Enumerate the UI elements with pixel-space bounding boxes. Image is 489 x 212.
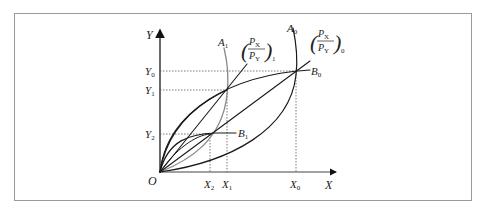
svg-text:1: 1	[272, 55, 276, 63]
curve-a0	[160, 28, 297, 172]
x-axis-label: X	[324, 178, 333, 192]
y-tick-y1: Y1	[145, 84, 155, 98]
price-ratio-0-label: ( PX PY ) 0	[310, 28, 345, 55]
svg-text:): )	[263, 38, 272, 63]
label-b1: B1	[238, 127, 249, 141]
svg-text:PX: PX	[317, 28, 329, 41]
x-tick-x0: X0	[289, 178, 301, 192]
price-line-0	[160, 61, 310, 172]
price-ratio-1-label: ( PX PY ) 1	[241, 36, 276, 63]
y-tick-y0: Y0	[145, 65, 155, 79]
offer-curve-diagram: Y X O Y0 Y1 Y2 X2 X1 X0 A1 A0 B0 B1 ( PX…	[0, 0, 489, 212]
svg-text:PX: PX	[248, 36, 260, 49]
y-tick-y2: Y2	[145, 128, 155, 142]
label-a0: A0	[286, 22, 298, 36]
svg-text:0: 0	[341, 47, 345, 55]
label-b0: B0	[311, 65, 322, 79]
x-tick-x2: X2	[203, 178, 215, 192]
svg-text:): )	[332, 30, 341, 55]
svg-text:PY: PY	[248, 50, 260, 63]
origin-label: O	[148, 174, 157, 188]
label-a1: A1	[217, 36, 229, 50]
y-axis-label: Y	[146, 28, 154, 42]
svg-text:PY: PY	[317, 42, 329, 55]
x-tick-x1: X1	[221, 178, 233, 192]
